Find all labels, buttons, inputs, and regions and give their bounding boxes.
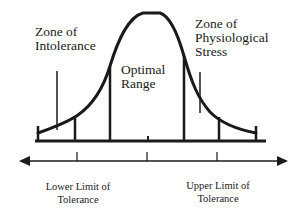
axis-arrow-right [277, 156, 288, 166]
lower-limit-label: Lower Limit of Tolerance [38, 180, 118, 206]
axis-arrow-left [19, 156, 30, 166]
zone-intolerance-label: Zone of Intolerance [35, 25, 96, 53]
zone-stress-label: Zone of Physiological Stress [195, 17, 269, 60]
tolerance-diagram: Zone of Intolerance Optimal Range Zone o… [0, 0, 308, 224]
zone-optimal-label: Optimal Range [121, 63, 165, 91]
upper-limit-label: Upper Limit of Tolerance [178, 179, 258, 205]
